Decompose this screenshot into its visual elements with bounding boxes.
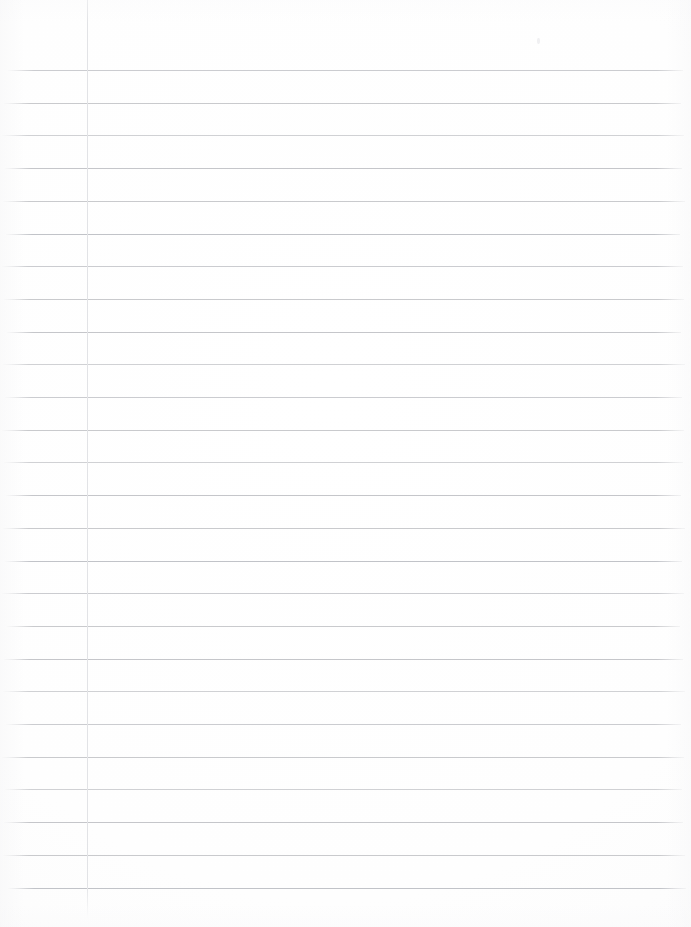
page-text-content (95, 70, 655, 890)
scan-speck-artifact (537, 38, 540, 44)
scanned-page (0, 0, 691, 927)
left-margin-rule (87, 0, 88, 919)
